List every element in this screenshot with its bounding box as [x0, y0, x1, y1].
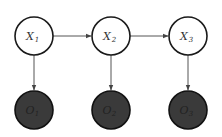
observed-node-o2: O 2 [92, 91, 130, 129]
svg-text:O: O [25, 104, 34, 117]
svg-text:3: 3 [189, 36, 194, 44]
hidden-node-x3: X 3 [169, 17, 207, 55]
svg-text:X: X [102, 30, 112, 43]
hmm-diagram: X 1 X 2 X 3 O 1 O 2 O 3 [0, 0, 222, 137]
svg-text:1: 1 [35, 110, 39, 118]
svg-text:2: 2 [111, 36, 117, 44]
svg-text:X: X [25, 30, 35, 43]
svg-text:O: O [102, 104, 111, 117]
observed-node-o3: O 3 [169, 91, 207, 129]
hidden-node-x1: X 1 [15, 17, 53, 55]
svg-text:2: 2 [111, 110, 117, 118]
hidden-node-x2: X 2 [92, 17, 130, 55]
svg-text:1: 1 [35, 36, 39, 44]
svg-text:X: X [179, 30, 189, 43]
svg-text:3: 3 [189, 110, 194, 118]
observed-node-o1: O 1 [15, 91, 53, 129]
svg-text:O: O [179, 104, 188, 117]
